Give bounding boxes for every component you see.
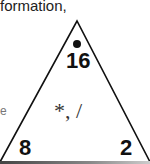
bottom-right-value: 2 xyxy=(120,135,132,161)
top-dot-icon xyxy=(73,40,81,48)
bottom-left-value: 8 xyxy=(19,135,31,161)
operations-label: *, / xyxy=(54,98,82,124)
left-edge-fragment: e xyxy=(0,104,7,118)
top-value: 16 xyxy=(66,48,90,74)
bottom-border xyxy=(0,161,150,164)
